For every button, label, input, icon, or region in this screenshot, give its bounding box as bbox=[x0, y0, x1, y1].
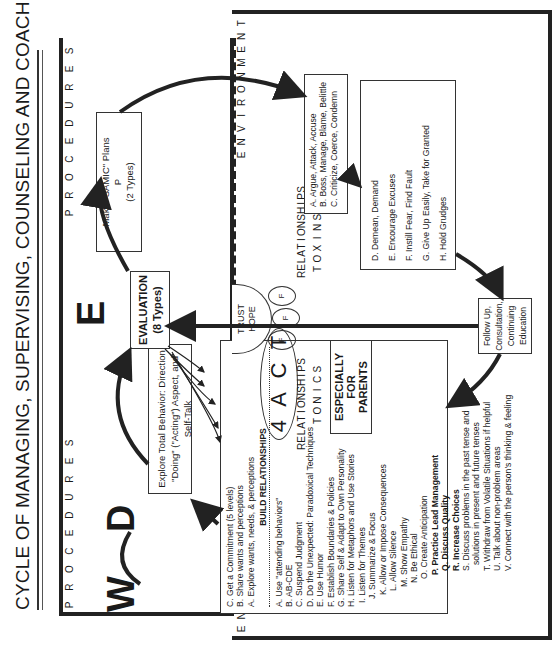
arrow-w-arc bbox=[122, 532, 140, 584]
arrow-d-to-e bbox=[118, 354, 148, 464]
arrow-p-to-toxins bbox=[120, 78, 300, 112]
arrow-e-to-p bbox=[99, 184, 128, 271]
diagram-canvas: CYCLE OF MANAGING, SUPERVISING, COUNSELI… bbox=[0, 0, 558, 654]
arrow-toxins-1-to-2 bbox=[348, 174, 358, 184]
arrow-w-to-d bbox=[196, 504, 218, 524]
arrow-toxins-to-followup bbox=[456, 254, 500, 294]
cycle-arrows bbox=[0, 0, 558, 654]
arrow-followup-to-w bbox=[452, 354, 500, 404]
